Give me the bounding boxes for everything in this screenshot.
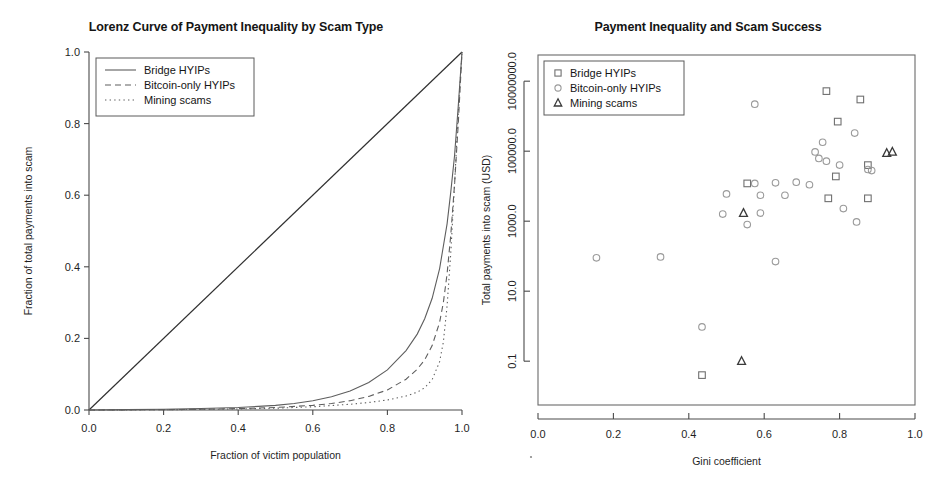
scatter-plot-svg: 0.110.01000.0100000.010000000.00.00.20.4… (472, 0, 944, 494)
scatter-point-circle (772, 258, 779, 265)
scatter-x-axis-title: Gini coefficient (692, 455, 761, 467)
lorenz-x-tick-label: 0.8 (380, 422, 395, 434)
scatter-series-square (699, 88, 871, 379)
scatter-point-circle (840, 205, 847, 212)
scatter-x-tick-label: 0.2 (606, 428, 621, 440)
scatter-y-tick-label: 10000000.0 (506, 52, 518, 110)
scatter-point-circle (772, 179, 779, 186)
scatter-point-circle (719, 211, 726, 218)
lorenz-y-tick-label: 0.2 (65, 332, 80, 344)
scatter-point-square (865, 195, 872, 202)
lorenz-x-tick-label: 1.0 (454, 422, 469, 434)
scatter-point-square (857, 96, 864, 103)
scatter-point-square (833, 173, 840, 180)
lorenz-y-axis-title: Fraction of total payments into scam (22, 146, 34, 315)
scatter-series-circle (593, 101, 875, 330)
scatter-point-triangle (738, 357, 746, 365)
scatter-point-circle (699, 324, 706, 331)
lorenz-y-tick-label: 0.4 (65, 261, 80, 273)
scan-artifact-dot (530, 456, 532, 458)
scatter-y-axis-title: Total payments into scam (USD) (480, 155, 492, 306)
scatter-point-circle (593, 254, 600, 261)
lorenz-y-tick-label: 1.0 (65, 46, 80, 58)
scatter-legend-label: Bridge HYIPs (570, 67, 637, 79)
scatter-point-square (823, 88, 830, 95)
lorenz-x-tick-label: 0.0 (81, 422, 96, 434)
figure-root: Lorenz Curve of Payment Inequality by Sc… (0, 0, 944, 494)
scatter-x-tick-label: 0.8 (832, 428, 847, 440)
scatter-point-circle (751, 180, 758, 187)
scatter-point-circle (657, 254, 664, 261)
scatter-point-circle (836, 162, 843, 169)
scatter-point-circle (851, 130, 858, 137)
lorenz-x-axis-title: Fraction of victim population (210, 449, 341, 461)
scatter-point-circle (757, 192, 764, 199)
scatter-y-tick-label: 10.0 (506, 280, 518, 301)
scatter-point-square (744, 180, 751, 187)
scatter-point-circle (723, 191, 730, 198)
scatter-point-square (834, 118, 841, 125)
scatter-x-tick-label: 1.0 (907, 428, 922, 440)
lorenz-x-tick-label: 0.6 (305, 422, 320, 434)
scatter-point-circle (816, 155, 823, 162)
scatter-point-square (825, 195, 832, 202)
scatter-point-triangle (740, 209, 748, 217)
panel-scatter-plot: Payment Inequality and Scam Success 0.11… (472, 0, 944, 494)
scatter-point-circle (757, 210, 764, 217)
scatter-point-circle (819, 139, 826, 146)
scatter-legend-label: Mining scams (570, 97, 638, 109)
lorenz-y-tick-label: 0.6 (65, 189, 80, 201)
scatter-x-tick-label: 0.0 (530, 428, 545, 440)
scatter-legend-label: Bitcoin-only HYIPs (570, 82, 662, 94)
lorenz-legend-label: Mining scams (144, 94, 212, 106)
scatter-point-circle (853, 219, 860, 226)
scatter-point-circle (751, 101, 758, 108)
panel-lorenz-curve: Lorenz Curve of Payment Inequality by Sc… (0, 0, 472, 494)
lorenz-legend-label: Bridge HYIPs (144, 64, 211, 76)
lorenz-y-tick-label: 0.8 (65, 118, 80, 130)
scatter-point-circle (806, 181, 813, 188)
lorenz-legend-label: Bitcoin-only HYIPs (144, 79, 236, 91)
scatter-series-triangle (738, 148, 897, 365)
scatter-point-circle (782, 192, 789, 199)
lorenz-x-tick-label: 0.2 (156, 422, 171, 434)
scatter-y-tick-label: 0.1 (506, 354, 518, 369)
lorenz-x-tick-label: 0.4 (231, 422, 246, 434)
scatter-y-tick-label: 100000.0 (506, 128, 518, 174)
scatter-point-circle (823, 158, 830, 165)
lorenz-y-tick-label: 0.0 (65, 404, 80, 416)
lorenz-plot-svg: 0.00.20.40.60.81.00.00.20.40.60.81.0Frac… (0, 0, 472, 494)
scatter-x-tick-label: 0.6 (757, 428, 772, 440)
scatter-point-circle (793, 179, 800, 186)
scatter-y-tick-label: 1000.0 (506, 204, 518, 238)
scatter-point-circle (812, 149, 819, 156)
scatter-point-circle (744, 221, 751, 228)
scatter-point-square (699, 372, 706, 379)
scatter-x-tick-label: 0.4 (681, 428, 696, 440)
